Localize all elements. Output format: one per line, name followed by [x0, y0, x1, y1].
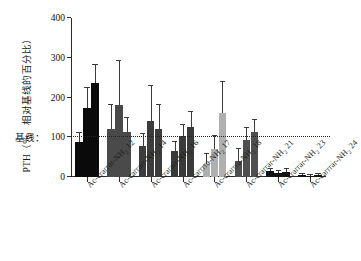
x-axis-category-labels: Ac-crarrar-NH2 12Ac-carrarr-NH2 14Ac-cra… — [0, 0, 333, 261]
figure-root: PTH（%，相对基线的百分比） 0100200300400基线： Ac-crar… — [0, 0, 333, 261]
